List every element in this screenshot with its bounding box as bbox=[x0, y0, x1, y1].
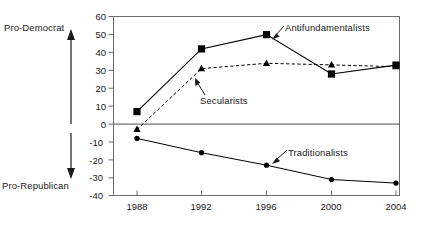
ytick-label-neg30: -30 bbox=[77, 172, 103, 183]
x-axis-ticks bbox=[137, 191, 396, 196]
xtick-label-2004: 2004 bbox=[376, 201, 416, 212]
xtick-label-1988: 1988 bbox=[117, 201, 157, 212]
ytick-label-neg40: -40 bbox=[77, 190, 103, 201]
pro-democrat-arrow bbox=[67, 29, 75, 124]
plot-frame bbox=[114, 17, 400, 196]
xtick-label-1996: 1996 bbox=[246, 201, 286, 212]
line-chart-canvas bbox=[0, 0, 427, 230]
series-antifundamentalists bbox=[133, 31, 399, 115]
antifundamentalists-callout-label: Antifundamentalists bbox=[285, 22, 370, 33]
traditionalists-callout-label: Traditionalists bbox=[288, 147, 348, 158]
xtick-label-1992: 1992 bbox=[181, 201, 221, 212]
series-traditionalists bbox=[134, 136, 398, 186]
ytick-label-20: 20 bbox=[80, 83, 106, 94]
ytick-label-neg20: -20 bbox=[77, 155, 103, 166]
ytick-label-60: 60 bbox=[80, 11, 106, 22]
ytick-label-40: 40 bbox=[80, 47, 106, 58]
ytick-label-10: 10 bbox=[80, 101, 106, 112]
y-axis-ticks bbox=[109, 17, 114, 196]
pro-democrat-label: Pro-Democrat bbox=[4, 22, 64, 33]
ytick-label-50: 50 bbox=[80, 29, 106, 40]
ytick-label-neg10: -10 bbox=[77, 137, 103, 148]
pro-republican-label: Pro-Republican bbox=[2, 180, 69, 191]
chart-figure: 60 50 40 30 20 10 0 -10 -20 -30 -40 1988… bbox=[0, 0, 427, 230]
traditionalists-leader-arrow bbox=[272, 150, 287, 164]
ytick-label-30: 30 bbox=[80, 65, 106, 76]
antifundamentalists-leader-arrow bbox=[272, 26, 284, 40]
pro-republican-arrow bbox=[67, 133, 75, 179]
xtick-label-2000: 2000 bbox=[311, 201, 351, 212]
secularists-leader-arrow bbox=[195, 78, 205, 95]
secularists-callout-label: Secularists bbox=[200, 95, 248, 106]
ytick-label-0: 0 bbox=[80, 119, 106, 130]
